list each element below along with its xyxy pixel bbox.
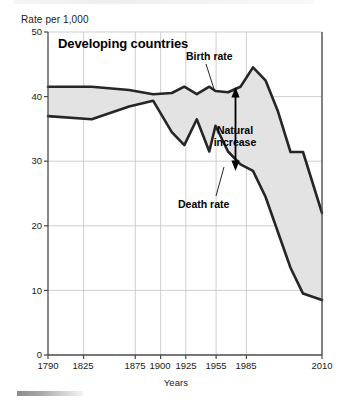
natural-increase-line-1: Natural — [204, 124, 266, 136]
y-tick-label-30: 30 — [20, 155, 42, 166]
natural-increase-annotation: Natural increase — [204, 124, 266, 148]
x-tick-label-1985: 1985 — [226, 360, 266, 371]
y-tick-label-0: 0 — [20, 349, 42, 360]
x-axis-caption: Years — [0, 377, 352, 388]
x-tick-label-2010: 2010 — [302, 360, 342, 371]
natural-increase-line-2: increase — [204, 136, 266, 148]
y-tick-label-20: 20 — [20, 220, 42, 231]
y-tick-label-40: 40 — [20, 91, 42, 102]
x-tick-label-1790: 1790 — [28, 360, 68, 371]
death-rate-annotation: Death rate — [178, 198, 229, 210]
x-tick-label-1825: 1825 — [63, 360, 103, 371]
birth-rate-annotation: Birth rate — [186, 50, 233, 62]
y-tick-label-10: 10 — [20, 285, 42, 296]
panel-title: Developing countries — [58, 36, 188, 51]
y-tick-label-50: 50 — [20, 26, 42, 37]
chart-plot-area — [0, 0, 352, 407]
scan-artifact-gray-bar — [17, 391, 83, 396]
figure-container: Rate per 1,000 — [0, 0, 352, 407]
